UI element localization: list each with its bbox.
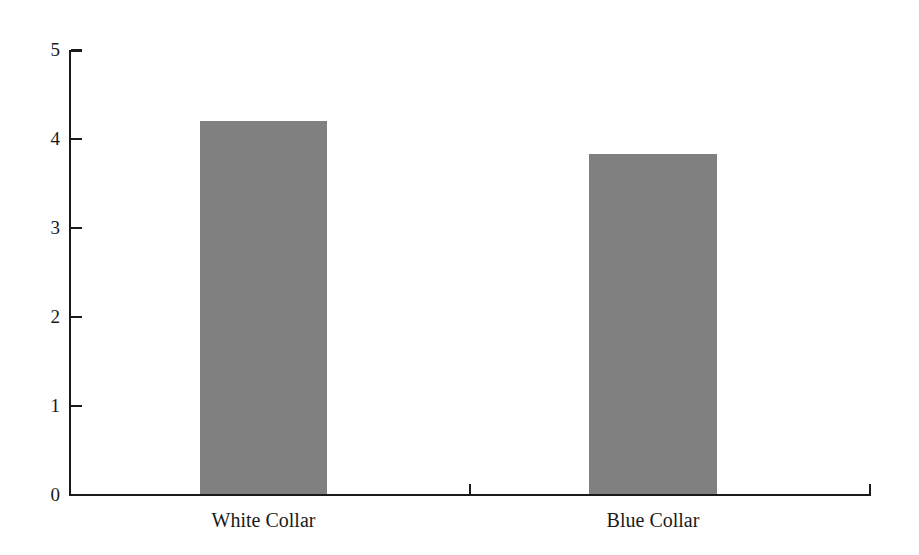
- y-axis-tick-3: [71, 227, 82, 229]
- y-axis-label-1: 1: [34, 396, 60, 415]
- x-axis-category-label-white-collar: White Collar: [200, 508, 327, 532]
- bar-chart: 5 4 3 2 1 0 White Collar Blue Collar: [0, 0, 919, 555]
- y-axis-tick-2: [71, 316, 82, 318]
- y-axis-label-3: 3: [34, 218, 60, 237]
- y-axis-tick-4: [71, 138, 82, 140]
- x-axis-category-label-blue-collar: Blue Collar: [589, 508, 717, 532]
- y-axis-label-0: 0: [34, 485, 60, 504]
- x-axis-tick-end: [869, 484, 871, 495]
- y-axis-label-2: 2: [34, 307, 60, 326]
- bar-blue-collar: [589, 154, 717, 494]
- y-axis-tick-5: [71, 49, 82, 51]
- y-axis-label-4: 4: [34, 129, 60, 148]
- x-axis-tick-mid: [469, 484, 471, 495]
- y-axis-line: [69, 50, 71, 496]
- y-axis-label-5: 5: [34, 40, 60, 59]
- bar-white-collar: [200, 121, 327, 494]
- y-axis-tick-1: [71, 405, 82, 407]
